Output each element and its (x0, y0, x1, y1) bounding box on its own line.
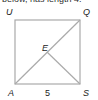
label-a: A (7, 88, 14, 98)
label-u: U (6, 7, 13, 17)
label-s: S (83, 88, 89, 98)
segment-es (47, 52, 80, 84)
label-q: Q (83, 7, 90, 17)
square-diagram: U Q E A 5 S (0, 0, 98, 100)
label-side-length: 5 (45, 88, 50, 98)
label-e: E (42, 43, 49, 53)
